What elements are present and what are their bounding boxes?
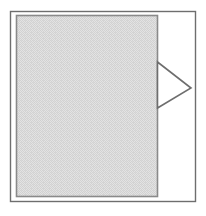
diagram-canvas: [0, 0, 206, 216]
diagram-svg: [0, 0, 206, 216]
shaded-panel: [17, 16, 158, 197]
